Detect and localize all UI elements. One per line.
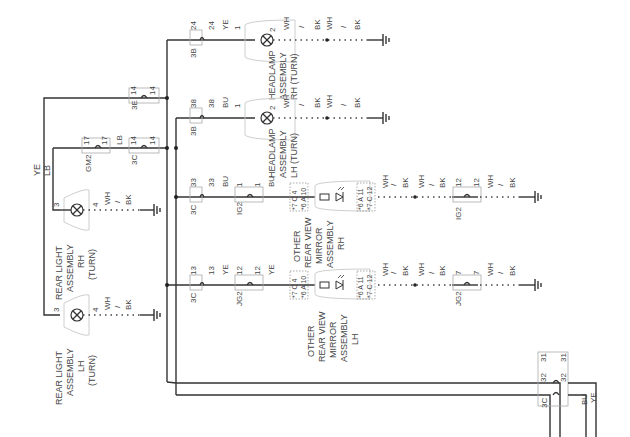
svg-text:YE: YE [267,264,276,275]
mirror-lh-row: 3C 13 13 YE JG2 12 12 YE *7 C 4 *6 A 10 … [189,262,541,362]
svg-text:14: 14 [129,136,138,145]
connector-gm2: GM2 17 17 LB [82,135,124,172]
svg-text:*7 C 12: *7 C 12 [366,275,373,298]
svg-text:3C: 3C [189,293,198,303]
svg-text:BK: BK [353,19,362,30]
svg-text:*6 A 11: *6 A 11 [357,276,364,298]
svg-text:14: 14 [148,136,157,145]
svg-text:/: / [389,183,398,186]
svg-text:WH: WH [325,16,334,30]
rear-light-rh: 3 4 WH / BK REAR LIGHT ASSEMBLY RH (TURN… [52,190,160,300]
svg-text:12: 12 [235,266,244,275]
headlamp-rh: 3B 24 24 YE 1 2 HEADLAMP ASSEMBLY RH (TU… [189,16,389,100]
svg-text:ASSEMBLY: ASSEMBLY [325,220,335,268]
svg-text:/: / [427,271,436,274]
svg-text:12: 12 [454,178,463,187]
lamp-icon [71,204,83,216]
trunk-color-label: YE LB [32,164,52,176]
svg-text:31: 31 [559,353,568,362]
mirror-heater-icon [320,282,329,288]
svg-text:17: 17 [100,136,109,145]
svg-text:LH (TURN): LH (TURN) [289,133,299,178]
svg-text:ASSEMBLY: ASSEMBLY [278,130,288,178]
svg-text:BK: BK [508,177,517,188]
mirror-heater-icon [320,194,329,200]
ground-icon [140,309,160,321]
led-icon [336,187,344,202]
svg-text:GM2: GM2 [84,154,93,172]
svg-text:33: 33 [207,178,216,187]
svg-text:/: / [339,25,348,28]
svg-text:RH: RH [336,237,346,250]
svg-text:/: / [496,183,505,186]
svg-text:32: 32 [559,373,568,382]
svg-text:7: 7 [454,270,463,275]
svg-text:31: 31 [539,353,548,362]
svg-text:(TURN): (TURN) [87,249,97,280]
svg-text:*7 C 4: *7 C 4 [291,278,298,298]
svg-text:13: 13 [207,266,216,275]
svg-text:/: / [339,103,348,106]
svg-text:BK: BK [401,265,410,276]
svg-text:2: 2 [268,27,277,32]
svg-text:12: 12 [472,178,481,187]
svg-text:3: 3 [52,202,61,207]
svg-text:38: 38 [189,99,198,108]
svg-text:OTHER: OTHER [306,325,316,357]
svg-text:HEADLAMP: HEADLAMP [267,128,277,178]
svg-text:/: / [389,271,398,274]
connector-3c-14: 3C 14 14 [129,136,159,165]
svg-text:JG2: JG2 [235,291,244,306]
svg-text:1: 1 [253,182,262,187]
svg-text:3B: 3B [189,48,198,58]
svg-text:RH (TURN): RH (TURN) [289,54,299,101]
svg-text:14: 14 [129,86,138,95]
svg-text:/: / [113,305,122,308]
svg-text:RH: RH [76,255,86,268]
svg-text:/: / [496,271,505,274]
svg-text:33: 33 [189,178,198,187]
svg-text:REAR VIEW: REAR VIEW [303,217,313,268]
svg-text:IG2: IG2 [235,202,244,215]
svg-text:ASSEMBLY: ASSEMBLY [65,348,75,396]
svg-text:BK: BK [124,299,133,310]
svg-text:YE: YE [32,164,42,176]
led-icon [336,275,344,290]
svg-text:7: 7 [472,270,481,275]
ground-icon [368,34,389,46]
svg-text:3C: 3C [189,205,198,215]
svg-text:OTHER: OTHER [292,230,302,262]
svg-text:4: 4 [91,307,100,312]
svg-text:WH: WH [282,94,291,108]
svg-text:24: 24 [207,21,216,30]
svg-text:(TURN): (TURN) [87,355,97,386]
svg-text:3C: 3C [540,398,549,408]
svg-text:14: 14 [148,86,157,95]
svg-text:WH: WH [417,262,426,276]
svg-text:BK: BK [124,194,133,205]
svg-text:YE: YE [589,392,598,403]
svg-text:3: 3 [52,307,61,312]
svg-text:MIRROR: MIRROR [328,321,338,358]
svg-text:3C: 3C [130,155,139,165]
svg-text:JG2: JG2 [454,291,463,306]
ground-icon [140,204,160,216]
svg-text:1: 1 [233,103,242,108]
svg-text:WH: WH [325,94,334,108]
svg-text:17: 17 [82,136,91,145]
svg-text:LB: LB [42,165,52,176]
svg-text:BU: BU [221,97,230,108]
svg-text:BU: BU [221,176,230,187]
svg-text:BK: BK [438,265,447,276]
svg-text:BU: BU [580,394,589,405]
svg-text:IG2: IG2 [454,207,463,220]
svg-text:MIRROR: MIRROR [314,227,324,264]
svg-text:REAR VIEW: REAR VIEW [317,311,327,362]
mirror-rh-row: 3C 33 33 BU IG2 1 1 BU *7 C 4 *6 A 10 *6… [189,174,541,268]
ground-icon [520,279,541,291]
headlamp-lh: 3B 38 38 BU 1 2 HEADLAMP ASSEMBLY LH (TU… [189,94,389,178]
svg-text:YE: YE [221,264,230,275]
lamp-icon [71,309,83,321]
svg-text:/: / [113,200,122,203]
svg-text:ASSEMBLY: ASSEMBLY [65,244,75,292]
